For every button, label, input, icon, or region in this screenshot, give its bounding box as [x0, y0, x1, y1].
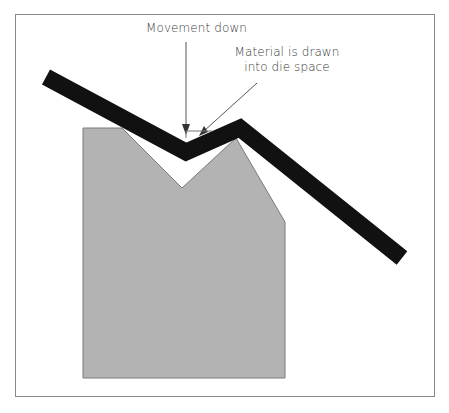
die-block	[83, 128, 285, 378]
bending-diagram	[0, 0, 449, 413]
movement-label: Movement down	[146, 21, 247, 35]
material-label-line2: into die space	[232, 60, 342, 75]
material-label-line1: Material is drawn	[232, 45, 342, 60]
material-label: Material is drawn into die space	[232, 45, 342, 75]
